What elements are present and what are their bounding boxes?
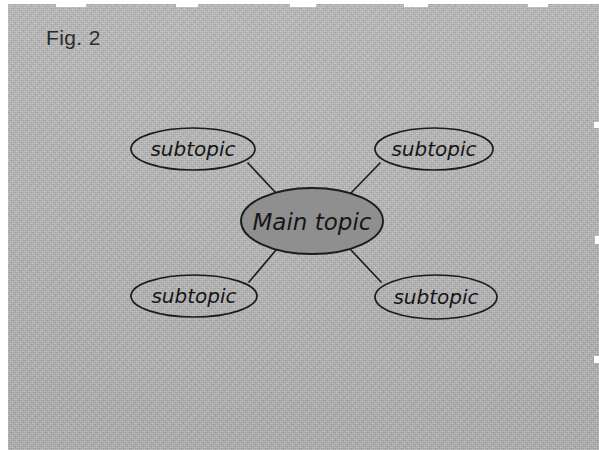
figure-page: Fig. 2 subtopic subtopic subtopic — [0, 0, 599, 450]
connector-line-top-right — [350, 163, 380, 194]
subtopic-label: subtopic — [391, 137, 476, 161]
node-subtopic-top-left[interactable]: subtopic — [131, 128, 255, 170]
main-topic-label: Main topic — [253, 209, 372, 235]
connector-line-bottom-left — [249, 250, 276, 282]
node-subtopic-top-right[interactable]: subtopic — [375, 128, 493, 170]
subtopic-label: subtopic — [151, 284, 236, 308]
connector-line-top-left — [248, 163, 276, 193]
subtopic-label: subtopic — [393, 285, 478, 309]
subtopic-label: subtopic — [150, 137, 235, 161]
node-subtopic-bottom-right[interactable]: subtopic — [375, 275, 497, 319]
connector-line-bottom-right — [351, 250, 381, 282]
node-subtopic-bottom-left[interactable]: subtopic — [131, 275, 257, 317]
scanned-paper: Fig. 2 subtopic subtopic subtopic — [8, 4, 599, 450]
node-main-topic[interactable]: Main topic — [241, 188, 383, 254]
mind-map-diagram: subtopic subtopic subtopic subtopic Main… — [8, 4, 599, 450]
